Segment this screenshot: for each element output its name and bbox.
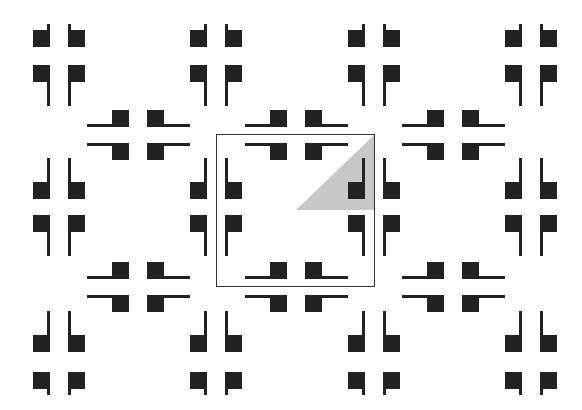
- motif-square: [505, 182, 522, 199]
- motif-stub: [402, 276, 427, 279]
- motif-square: [190, 182, 207, 199]
- unit-cell-frame: [216, 134, 375, 287]
- motif-stub: [362, 389, 365, 395]
- motif-stub: [47, 24, 50, 30]
- motif-stub: [204, 232, 207, 256]
- motif-stub: [402, 295, 427, 298]
- motif-square: [462, 262, 479, 279]
- motif-stub: [519, 232, 522, 256]
- motif-square: [112, 143, 129, 160]
- motif-square: [505, 372, 522, 389]
- motif-square: [190, 372, 207, 389]
- motif-stub: [47, 82, 50, 106]
- motif-square: [147, 295, 164, 312]
- motif-stub: [519, 311, 522, 335]
- motif-square: [427, 295, 444, 312]
- motif-square: [383, 182, 400, 199]
- motif-square: [225, 335, 242, 352]
- motif-square: [225, 372, 242, 389]
- motif-square: [383, 30, 400, 47]
- motif-square: [68, 30, 85, 47]
- motif-square: [33, 182, 50, 199]
- motif-square: [383, 372, 400, 389]
- motif-square: [225, 182, 242, 199]
- motif-stub: [164, 295, 190, 298]
- motif-stub: [164, 276, 190, 279]
- motif-stub: [540, 82, 543, 106]
- motif-square: [270, 295, 287, 312]
- motif-stub: [540, 311, 543, 335]
- motif-square: [348, 182, 365, 199]
- motif-stub: [383, 232, 386, 256]
- motif-stub: [68, 82, 71, 106]
- motif-stub: [519, 389, 522, 395]
- motif-stub: [479, 295, 505, 298]
- motif-stub: [47, 389, 50, 395]
- motif-stub: [225, 82, 228, 106]
- motif-stub: [362, 232, 365, 256]
- motif-square: [33, 215, 50, 232]
- motif-square: [462, 143, 479, 160]
- motif-square: [505, 335, 522, 352]
- motif-stub: [362, 82, 365, 106]
- motif-stub: [68, 24, 71, 30]
- motif-stub: [322, 295, 348, 298]
- motif-square: [348, 65, 365, 82]
- motif-stub: [87, 276, 112, 279]
- motif-square: [112, 295, 129, 312]
- motif-square: [505, 65, 522, 82]
- motif-square: [68, 182, 85, 199]
- motif-stub: [322, 143, 348, 146]
- motif-stub: [322, 276, 348, 279]
- motif-square: [348, 30, 365, 47]
- motif-square: [383, 215, 400, 232]
- motif-stub: [68, 311, 71, 335]
- motif-square: [462, 295, 479, 312]
- motif-stub: [164, 124, 190, 127]
- motif-square: [427, 110, 444, 127]
- motif-square: [112, 262, 129, 279]
- motif-stub: [245, 276, 270, 279]
- motif-square: [190, 30, 207, 47]
- motif-square: [540, 65, 557, 82]
- motif-square: [33, 372, 50, 389]
- motif-stub: [383, 24, 386, 30]
- motif-square: [68, 65, 85, 82]
- motif-square: [305, 143, 322, 160]
- motif-square: [348, 335, 365, 352]
- motif-square: [462, 110, 479, 127]
- motif-stub: [225, 389, 228, 395]
- motif-square: [147, 143, 164, 160]
- motif-stub: [322, 124, 348, 127]
- motif-stub: [362, 311, 365, 335]
- motif-stub: [204, 82, 207, 106]
- motif-stub: [225, 232, 228, 256]
- motif-square: [540, 372, 557, 389]
- motif-square: [505, 215, 522, 232]
- motif-square: [270, 110, 287, 127]
- motif-square: [112, 110, 129, 127]
- motif-stub: [479, 276, 505, 279]
- motif-square: [348, 372, 365, 389]
- motif-stub: [204, 24, 207, 30]
- motif-stub: [204, 158, 207, 182]
- motif-square: [348, 215, 365, 232]
- motif-stub: [383, 158, 386, 182]
- motif-square: [225, 30, 242, 47]
- motif-square: [33, 335, 50, 352]
- motif-stub: [540, 24, 543, 30]
- motif-square: [383, 335, 400, 352]
- motif-square: [540, 182, 557, 199]
- motif-square: [270, 143, 287, 160]
- motif-stub: [402, 124, 427, 127]
- motif-square: [68, 215, 85, 232]
- motif-square: [305, 295, 322, 312]
- motif-stub: [540, 389, 543, 395]
- motif-square: [383, 65, 400, 82]
- motif-square: [540, 30, 557, 47]
- motif-stub: [540, 158, 543, 182]
- motif-square: [147, 110, 164, 127]
- motif-stub: [225, 158, 228, 182]
- motif-stub: [519, 24, 522, 30]
- motif-stub: [519, 158, 522, 182]
